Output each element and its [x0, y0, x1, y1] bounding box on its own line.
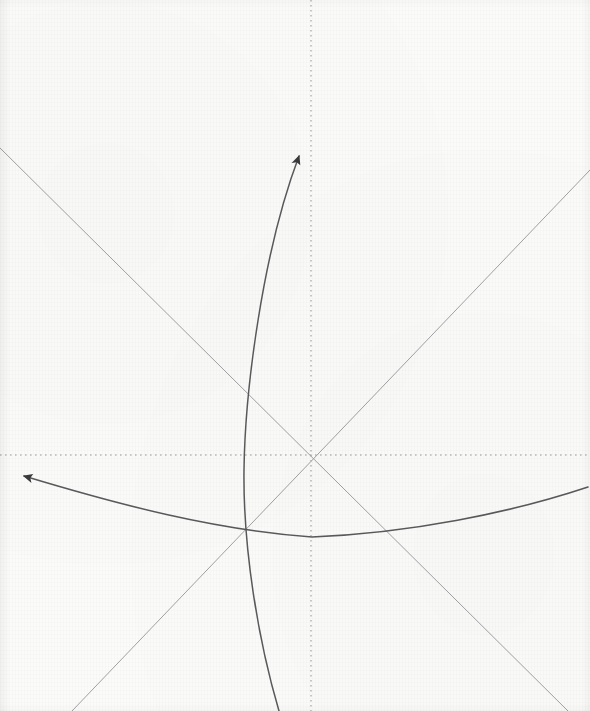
shallow-curve-with-arrow: [24, 476, 588, 537]
sketch-canvas: [0, 0, 590, 711]
descending-diagonal: [0, 146, 568, 711]
rising-curve-with-arrow: [244, 156, 299, 711]
ascending-diagonal: [72, 170, 590, 711]
figure-svg: [0, 0, 590, 711]
